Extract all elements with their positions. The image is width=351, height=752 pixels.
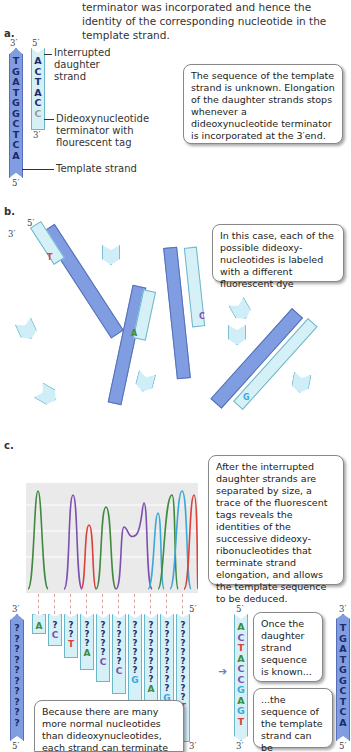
template-sequence-strand: TGATGGCTCA (336, 614, 350, 741)
base-letter: C (238, 664, 245, 675)
terminator-b4: G (243, 393, 250, 402)
terminator-base: C (100, 657, 107, 668)
base-letter: A (339, 644, 346, 655)
callout-termination: Because there are many more normal nucle… (34, 700, 184, 752)
base-letter: G (237, 706, 245, 717)
prime-label: 3′ (236, 741, 243, 751)
free-nucleotide-icon (228, 297, 254, 323)
prime-label: 3′ (189, 741, 196, 751)
terminator-base: A (36, 621, 43, 632)
fragment-strand: ?C (48, 614, 62, 646)
prime-label: 5′ (236, 604, 243, 614)
connector-line (70, 594, 71, 614)
connector-line (182, 594, 183, 614)
base-letter: T (238, 643, 244, 654)
base-letter: C (35, 109, 42, 120)
terminator-base: C (52, 630, 59, 641)
base-letter: T (13, 56, 19, 67)
base-letter: A (12, 77, 19, 88)
connector-line (54, 594, 55, 614)
free-nucleotide-icon (290, 372, 311, 395)
prime-label: 3′ (8, 229, 15, 239)
terminator-base: A (84, 648, 91, 659)
callout-trace: After the interrupted daughter strands a… (208, 455, 344, 585)
base-letter: C (340, 707, 347, 718)
base-letter: A (34, 56, 41, 67)
prime-label: 5′ (12, 741, 19, 751)
daughter-3-prime: 3′ (33, 130, 40, 140)
fragment-strand: ????C (96, 614, 110, 682)
free-nucleotide-icon (15, 317, 40, 343)
arrow-right-icon: ➔ (218, 665, 227, 678)
label-interrupted-strand: Interrupted daughter strand (54, 47, 134, 83)
prime-label: 5′ (189, 604, 196, 614)
base-letter: G (12, 98, 20, 109)
terminator-b2: A (131, 329, 137, 338)
base-letter: A (237, 622, 244, 633)
base-letter: G (237, 685, 245, 696)
terminator-base: C (116, 666, 123, 677)
base-letter: ? (14, 644, 20, 655)
label-terminator: Dideoxynucleotide terminator with floure… (56, 113, 146, 149)
free-nucleotide-icon (102, 245, 120, 265)
base-letter: ? (14, 686, 20, 697)
terminator-base: G (131, 675, 138, 686)
base-letter: G (339, 665, 347, 676)
template-strand-unknown: ?????????? (10, 614, 24, 741)
intro-text: terminator was incorporated and hence th… (82, 0, 347, 42)
base-letter: ? (14, 623, 20, 634)
template-3-prime: 3′ (10, 38, 17, 48)
base-letter: ? (14, 707, 20, 718)
prime-label: 5′ (339, 741, 346, 751)
prime-label: 3′ (12, 604, 19, 614)
free-nucleotide-icon (228, 325, 246, 345)
callout-fluorescent-dye: In this case, each of the possible dideo… (212, 224, 344, 282)
prime-label: 5′ (27, 218, 34, 228)
daughter-strand: ACTACC (31, 48, 45, 130)
panel-b-label: b. (4, 206, 15, 217)
connector-line (166, 594, 167, 614)
template-5-prime: 5′ (12, 178, 19, 188)
base-letter: C (340, 686, 347, 697)
daughter-sequence-strand: ACTACCGAGT (234, 614, 248, 741)
callout-once-known: Once the daughter strand sequence is kno… (253, 612, 323, 682)
base-letter: T (35, 77, 41, 88)
leader-line (44, 54, 52, 55)
template-strand: TGATGGCTCA (9, 48, 23, 178)
base-letter: ? (14, 665, 20, 676)
callout-determined: ...the sequence of the template strand c… (253, 688, 333, 748)
callout-unknown-sequence: The sequence of the template strand is u… (183, 64, 343, 144)
connector-line (86, 594, 87, 614)
base-letter: ? (14, 718, 20, 729)
connector-line (118, 594, 119, 614)
base-letter: T (238, 717, 244, 728)
connector-line (134, 594, 135, 614)
terminator-b3: C (199, 312, 205, 321)
daughter-5-prime: 5′ (32, 38, 39, 48)
label-template-strand: Template strand (56, 163, 137, 175)
base-letter: C (13, 119, 20, 130)
fragment-strand: ?????C (112, 614, 126, 694)
panel-c-label: c. (4, 440, 14, 451)
connector-line (102, 594, 103, 614)
terminator-b1: T (47, 253, 52, 262)
base-letter: A (339, 718, 346, 729)
leader-line (44, 119, 54, 120)
free-nucleotide-icon (34, 382, 60, 408)
terminator-base: T (68, 639, 74, 650)
trace-plot (26, 483, 198, 593)
base-letter: T (340, 623, 346, 634)
fragment-strand: ???A (80, 614, 94, 670)
leader-line (22, 169, 54, 170)
terminator-base: A (148, 684, 155, 695)
free-nucleotide-icon (134, 370, 157, 394)
base-letter: C (13, 140, 20, 151)
fragment-strand: ??????G (128, 614, 142, 706)
connector-line (150, 594, 151, 614)
fragment-strand: A (32, 614, 46, 634)
connector-line (38, 594, 39, 614)
base-letter: A (12, 151, 19, 162)
fragment-strand: ??T (64, 614, 78, 658)
base-letter: C (35, 98, 42, 109)
prime-label: 3′ (339, 604, 346, 614)
